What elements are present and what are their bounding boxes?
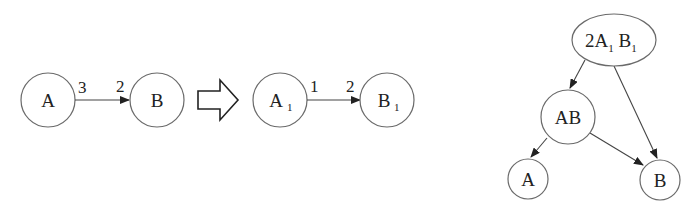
node-ab: AB: [541, 90, 595, 144]
node-root: 2A1 B1: [572, 14, 656, 66]
node-ab-label: AB: [555, 107, 581, 128]
edge-head-label: 2: [116, 77, 125, 96]
root-sub2: 1: [631, 42, 637, 54]
node-b1-label: B: [378, 90, 391, 111]
node-a1-subscript: 1: [287, 101, 293, 113]
node-a1-label: A: [269, 90, 283, 111]
node-leaf-b: B: [640, 160, 680, 200]
node-b: B: [130, 73, 184, 127]
root-prefix: 2A: [585, 30, 609, 51]
node-a-label: A: [41, 90, 55, 111]
node-leaf-a-label: A: [521, 169, 535, 190]
hollow-right-arrow-icon: [198, 80, 238, 120]
edge-tail-label: 3: [78, 78, 87, 97]
node-leaf-b-label: B: [654, 170, 667, 191]
root-mid: B: [614, 30, 631, 51]
middle-graph: A 1 1 2 B 1: [253, 73, 414, 127]
tree-graph: 2A1 B1 AB A B: [508, 14, 680, 200]
node-b-label: B: [151, 90, 164, 111]
edge-root-to-ab: [570, 60, 585, 88]
node-b1: B 1: [360, 73, 414, 127]
left-graph: A 3 2 B: [21, 73, 184, 127]
edge-tail-label: 1: [310, 77, 319, 96]
node-a: A: [21, 73, 75, 127]
edge-root-to-b: [614, 66, 657, 158]
node-b1-subscript: 1: [394, 101, 400, 113]
edge-head-label: 2: [346, 77, 355, 96]
node-a1: A 1: [253, 73, 307, 127]
diagram-canvas: A 3 2 B A 1 1 2 B 1: [0, 0, 695, 212]
node-leaf-a: A: [508, 159, 548, 199]
edge-ab-to-a: [531, 138, 547, 157]
edge-ab-to-b: [590, 133, 643, 165]
